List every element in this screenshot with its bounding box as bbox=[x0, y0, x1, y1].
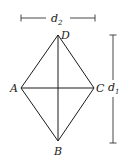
vertex-label-a: A bbox=[9, 82, 18, 95]
rhombus-diagram: d2 d1 D A C B bbox=[0, 0, 122, 166]
vertex-label-b: B bbox=[53, 145, 62, 158]
vertex-label-d: D bbox=[60, 29, 70, 42]
d1-label: d1 bbox=[108, 81, 120, 96]
d2-label: d2 bbox=[51, 12, 63, 27]
vertex-label-c: C bbox=[96, 82, 105, 95]
